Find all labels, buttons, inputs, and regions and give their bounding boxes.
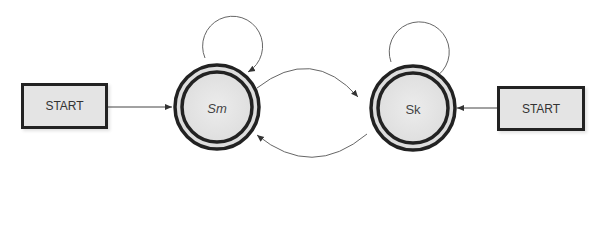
state-label-sm: Sm: [207, 101, 227, 116]
start-node-right[interactable]: START: [497, 86, 585, 131]
start-label-left: START: [45, 99, 83, 113]
start-node-left[interactable]: START: [21, 83, 108, 129]
transition-sm-to-sk: [257, 69, 358, 97]
state-label-sk: Sk: [405, 102, 420, 117]
transition-sk-to-sm: [257, 134, 367, 157]
start-label-right: START: [522, 102, 560, 116]
